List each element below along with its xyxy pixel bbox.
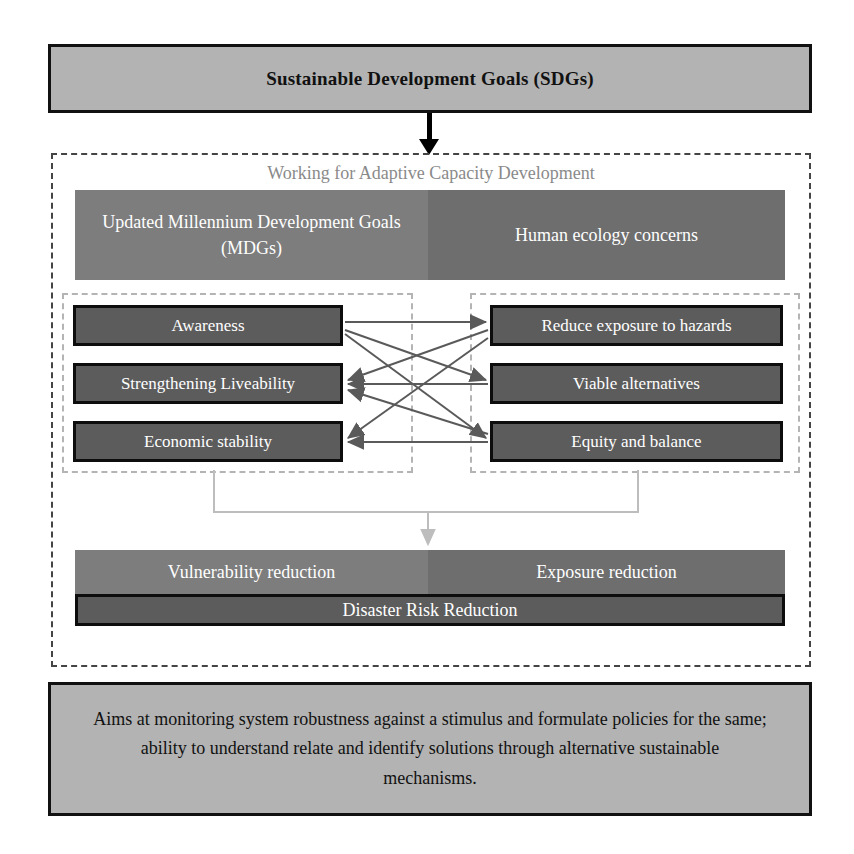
- item-viable-alternatives-label: Viable alternatives: [573, 374, 700, 394]
- item-equity-and-balance-label: Equity and balance: [571, 432, 701, 452]
- framework-title: Working for Adaptive Capacity Developmen…: [51, 158, 811, 188]
- pillar-human-ecology-label: Human ecology concerns: [515, 222, 698, 248]
- diagram-canvas: Sustainable Development Goals (SDGs) Wor…: [0, 0, 854, 854]
- disaster-risk-reduction-label: Disaster Risk Reduction: [343, 600, 518, 621]
- item-reduce-exposure-to-hazards-label: Reduce exposure to hazards: [541, 316, 731, 336]
- pillar-mdg-label: Updated Millennium Development Goals (MD…: [87, 209, 416, 261]
- item-awareness: Awareness: [73, 305, 343, 346]
- pillar-mdg: Updated Millennium Development Goals (MD…: [75, 190, 428, 280]
- band-exposure-reduction: Exposure reduction: [428, 550, 785, 594]
- item-economic-stability: Economic stability: [73, 421, 343, 462]
- band-exposure-reduction-label: Exposure reduction: [536, 562, 676, 583]
- disaster-risk-reduction-box: Disaster Risk Reduction: [75, 594, 785, 626]
- pillars-bar: Updated Millennium Development Goals (MD…: [75, 190, 785, 280]
- band-vulnerability-reduction: Vulnerability reduction: [75, 550, 428, 594]
- pillar-human-ecology: Human ecology concerns: [428, 190, 785, 280]
- item-viable-alternatives: Viable alternatives: [490, 363, 783, 404]
- reduction-bands: Vulnerability reduction Exposure reducti…: [75, 550, 785, 594]
- item-strengthening-liveability-label: Strengthening Liveability: [121, 374, 295, 394]
- footer-caption-box: Aims at monitoring system robustness aga…: [48, 682, 812, 816]
- sdg-banner-label: Sustainable Development Goals (SDGs): [266, 68, 594, 90]
- item-economic-stability-label: Economic stability: [144, 432, 272, 452]
- band-vulnerability-reduction-label: Vulnerability reduction: [168, 562, 335, 583]
- item-equity-and-balance: Equity and balance: [490, 421, 783, 462]
- sdg-banner: Sustainable Development Goals (SDGs): [48, 44, 812, 113]
- footer-caption-label: Aims at monitoring system robustness aga…: [93, 705, 767, 792]
- item-strengthening-liveability: Strengthening Liveability: [73, 363, 343, 404]
- item-reduce-exposure-to-hazards: Reduce exposure to hazards: [490, 305, 783, 346]
- item-awareness-label: Awareness: [171, 316, 244, 336]
